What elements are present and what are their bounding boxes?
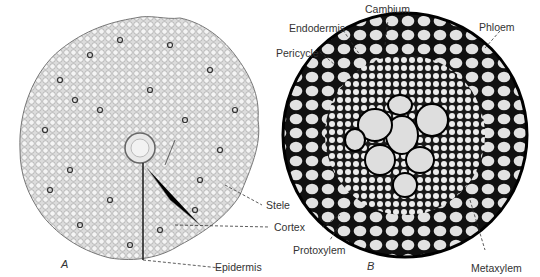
panel-letter-b: B <box>367 260 374 272</box>
label-metaxylem: Metaxylem <box>471 263 522 274</box>
label-phloem: Phloem <box>479 22 515 33</box>
label-cortex: Cortex <box>274 222 305 233</box>
label-endodermis: Endodermis <box>289 23 345 34</box>
label-pericycle: Pericycle <box>276 48 319 59</box>
micrograph-illustration <box>0 0 540 277</box>
label-protoxylem: Protoxylem <box>293 245 346 256</box>
panel-b-section <box>283 13 527 257</box>
panel-letter-a: A <box>61 258 68 270</box>
label-epidermis: Epidermis <box>215 262 262 273</box>
root-cross-section-figure: Cambium Endodermis Pericycle Phloem Stel… <box>0 0 540 277</box>
label-cambium: Cambium <box>365 4 410 15</box>
panel-a-section <box>20 17 259 260</box>
label-stele: Stele <box>266 200 290 211</box>
